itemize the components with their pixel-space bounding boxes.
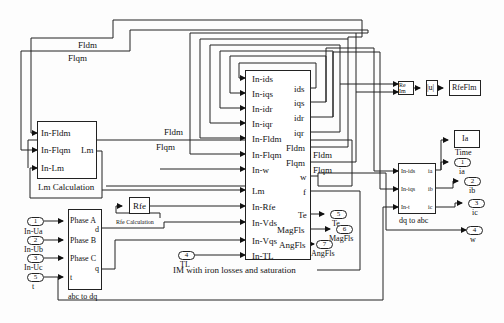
lm-input-flqm: In-Flqm xyxy=(41,145,71,155)
scope-block-label: Time xyxy=(455,148,472,157)
im-block-label: IM with iron losses and saturation xyxy=(173,265,296,275)
outport-1[interactable]: 1 xyxy=(454,158,471,167)
inport-4[interactable]: 4 xyxy=(178,251,195,260)
goto-block-text: RfeFlm xyxy=(452,83,476,92)
dq-input-iqs: In-iqs xyxy=(401,186,415,193)
inport-2[interactable]: 2 xyxy=(27,236,44,245)
im-input-lm: Lm xyxy=(252,186,265,196)
im-output-iqr: iqr xyxy=(294,128,304,138)
outport-6[interactable]: 6 xyxy=(336,225,353,234)
im-input-vqs: In-Vqs xyxy=(252,236,277,246)
im-input-idr: In-idr xyxy=(252,104,273,114)
dq-output-ib: ib xyxy=(428,186,433,193)
abc-input-phase-a: Phase A xyxy=(70,216,96,225)
im-input-tl: In-TL xyxy=(252,251,274,261)
im-input-rfe: In-Rfe xyxy=(252,202,276,212)
outport-2-label: ib xyxy=(469,186,475,195)
im-input-vds: In-Vds xyxy=(252,218,277,228)
im-input-iqs: In-iqs xyxy=(252,89,273,99)
outport-6-label: MagFls xyxy=(329,234,353,243)
inport-3[interactable]: 3 xyxy=(27,254,44,263)
dq-input-t: In-t xyxy=(401,204,410,211)
signal-label-flqm-top: Flqm xyxy=(68,53,87,63)
dq-block-label: dq to abc xyxy=(399,216,428,225)
abc-output-q: q xyxy=(95,264,99,273)
abc-output-d: d xyxy=(95,225,99,234)
abc-input-t: t xyxy=(70,273,72,282)
outport-1-label: ia xyxy=(459,167,465,176)
im-input-ids: In-ids xyxy=(252,74,273,84)
signal-label-fldm-mid: Fldm xyxy=(164,127,183,137)
im-output-f: f xyxy=(303,187,306,197)
outport-3[interactable]: 3 xyxy=(468,199,485,208)
inport-2-label: In-Ub xyxy=(24,245,43,254)
abc-input-phase-c: Phase C xyxy=(70,254,96,263)
inport-5[interactable]: 5 xyxy=(27,273,44,282)
simulink-canvas: In-ids In-iqs In-idr In-iqr In-Fldm In-F… xyxy=(0,0,504,323)
im-output-iqs: iqs xyxy=(294,98,305,108)
outport-4-label: w xyxy=(470,235,476,244)
complex-input-im: Im xyxy=(399,88,406,95)
outport-5[interactable]: 5 xyxy=(330,210,347,219)
inport-1-label: In-Ua xyxy=(24,227,43,236)
im-output-ids: ids xyxy=(294,84,305,94)
inport-5-label: t xyxy=(32,282,34,291)
signal-label-fldm-top: Fldm xyxy=(78,40,97,50)
dq-output-ia: ia xyxy=(428,168,432,175)
abc-input-phase-b: Phase B xyxy=(70,236,96,245)
abc-block-label: abc to dq xyxy=(68,292,97,301)
dq-input-ids: In-ids xyxy=(401,168,415,175)
dq-output-ic: ic xyxy=(428,204,432,211)
inport-1[interactable]: 1 xyxy=(27,217,44,226)
lm-block-label: Lm Calculation xyxy=(38,182,94,192)
lm-input-lm: In-Lm xyxy=(41,163,64,173)
abs-block-text: |u| xyxy=(427,83,434,92)
im-output-fldm: Fldm xyxy=(286,143,305,153)
rfe-block-label: Rfe Calculation xyxy=(116,219,154,226)
signal-label-fldm-out: Fldm xyxy=(313,150,332,160)
inport-4-label: TL xyxy=(180,260,190,269)
inport-3-label: In-Uc xyxy=(24,263,43,272)
im-output-flqm: Flqm xyxy=(286,158,305,168)
im-input-w: In-w xyxy=(252,165,269,175)
lm-output-lm: Lm xyxy=(81,145,94,155)
outport-2[interactable]: 2 xyxy=(464,177,481,186)
im-output-te: Te xyxy=(298,210,307,220)
im-output-w: w xyxy=(300,172,307,182)
im-output-idr: idr xyxy=(294,113,304,123)
outport-7-label: AngFls xyxy=(311,249,335,258)
lm-input-fldm: In-Fldm xyxy=(41,128,71,138)
im-output-angfls: AngFls xyxy=(279,240,306,250)
scope-block-text: Ia xyxy=(462,134,468,143)
signal-label-flqm-out: Flqm xyxy=(313,165,332,175)
outport-3-label: ic xyxy=(472,208,478,217)
im-input-flqm: In-Flqm xyxy=(252,150,282,160)
im-input-iqr: In-iqr xyxy=(252,119,273,129)
outport-7[interactable]: 7 xyxy=(316,240,333,249)
im-output-magfls: MagFls xyxy=(277,225,305,235)
signal-label-flqm-mid: Flqm xyxy=(156,142,175,152)
rfe-block-text: Rfe xyxy=(133,201,146,211)
im-input-fldm: In-Fldm xyxy=(252,134,282,144)
outport-4[interactable]: 4 xyxy=(466,226,483,235)
